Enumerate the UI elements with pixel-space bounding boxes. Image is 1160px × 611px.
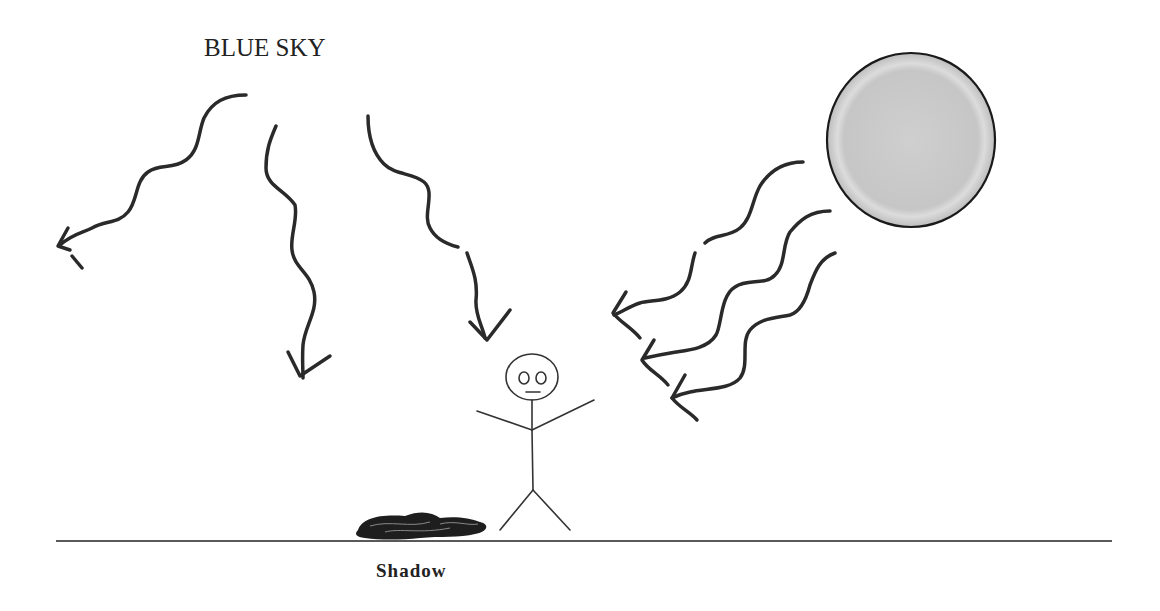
sun-ray-3: [672, 253, 835, 420]
diagram-canvas: BLUE SKY Shadow: [0, 0, 1160, 611]
sky-ray-1: [58, 95, 246, 268]
sky-ray-2: [266, 126, 330, 378]
sun: [827, 53, 995, 227]
blue-sky-label: BLUE SKY: [204, 34, 326, 62]
shadow-scribble: [356, 512, 486, 539]
diagram-drawing: [0, 0, 1160, 611]
sun-ray-1: [613, 162, 803, 338]
stick-figure: [477, 354, 594, 530]
shadow-label: Shadow: [376, 560, 446, 582]
sky-ray-3: [368, 116, 510, 340]
